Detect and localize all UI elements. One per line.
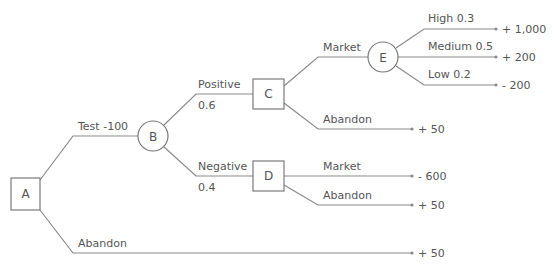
branch-d-market: Market - 600 xyxy=(284,160,446,183)
branch-label-test: Test -100 xyxy=(77,120,128,133)
node-label: D xyxy=(264,169,273,183)
payoff-value: + 50 xyxy=(418,199,445,212)
terminal-dot xyxy=(410,203,413,206)
branch-label-abandon: Abandon xyxy=(78,237,127,250)
branch-e-low: Low 0.2 - 200 xyxy=(396,66,530,92)
node-label: E xyxy=(379,51,387,65)
terminal-dot xyxy=(410,174,413,177)
terminal-dot xyxy=(494,27,497,30)
branch-c-market: Market xyxy=(284,41,369,86)
payoff-value: + 200 xyxy=(502,51,536,64)
branch-a-abandon: Abandon + 50 xyxy=(40,210,445,260)
terminal-dot xyxy=(410,127,413,130)
node-label: A xyxy=(21,187,30,201)
terminal-dot xyxy=(494,83,497,86)
payoff-value: + 50 xyxy=(418,247,445,260)
branch-b-negative: Negative 0.4 xyxy=(164,147,253,194)
node-label: B xyxy=(149,130,157,144)
branch-a-test: Test -100 xyxy=(40,120,138,180)
node-label: C xyxy=(264,87,272,101)
payoff-value: - 600 xyxy=(418,170,446,183)
node-e: E xyxy=(368,42,398,72)
branch-b-positive: Positive 0.6 xyxy=(164,78,253,125)
node-a: A xyxy=(11,178,40,210)
branch-label-positive: Positive xyxy=(198,78,241,91)
branch-label-abandon: Abandon xyxy=(323,113,372,126)
branch-label-high: High 0.3 xyxy=(428,12,474,25)
branch-d-abandon: Abandon + 50 xyxy=(284,185,445,212)
branch-label-market: Market xyxy=(323,41,361,54)
branch-label-negative: Negative xyxy=(198,160,248,173)
branch-probability: 0.6 xyxy=(198,99,216,112)
branch-label-low: Low 0.2 xyxy=(428,68,471,81)
node-d: D xyxy=(253,161,284,191)
payoff-value: + 50 xyxy=(418,123,445,136)
branch-e-medium: Medium 0.5 + 200 xyxy=(398,40,536,64)
terminal-dot xyxy=(410,251,413,254)
branch-label-medium: Medium 0.5 xyxy=(428,40,493,53)
branch-label-market: Market xyxy=(323,160,361,173)
terminal-dot xyxy=(494,55,497,58)
branch-probability: 0.4 xyxy=(198,181,216,194)
decision-tree: Test -100 Abandon + 50 Positive 0.6 Nega… xyxy=(0,0,552,266)
branch-label-abandon: Abandon xyxy=(323,189,372,202)
payoff-value: + 1,000 xyxy=(502,23,546,36)
node-c: C xyxy=(253,79,284,109)
payoff-value: - 200 xyxy=(502,79,530,92)
node-b: B xyxy=(138,121,168,151)
branch-c-abandon: Abandon + 50 xyxy=(284,103,445,136)
